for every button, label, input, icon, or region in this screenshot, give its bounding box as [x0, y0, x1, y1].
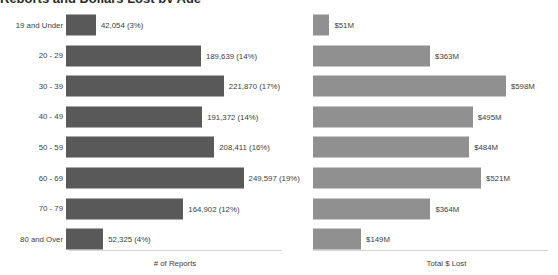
- value-label: $598M: [511, 82, 535, 91]
- bar-track: $598M: [313, 71, 558, 102]
- bar-track: $363M: [313, 40, 558, 71]
- bar-track: $364M: [313, 193, 558, 224]
- bar-track: $51M: [313, 10, 558, 41]
- value-label: $149M: [366, 235, 390, 244]
- bar-row: 30 - 39221,870 (17%): [0, 71, 290, 102]
- bar[interactable]: [313, 45, 430, 66]
- category-label: 80 and Over: [0, 235, 66, 244]
- bar-track: $521M: [313, 163, 558, 194]
- bar-track: 249,597 (19%): [66, 163, 290, 194]
- value-label: 221,870 (17%): [229, 82, 280, 91]
- value-label: $363M: [435, 51, 459, 60]
- value-label: 208,411 (16%): [219, 143, 270, 152]
- bar[interactable]: [313, 137, 469, 158]
- bar[interactable]: [66, 137, 214, 158]
- bar[interactable]: [66, 198, 183, 219]
- bar-track: 42,054 (3%): [66, 10, 290, 41]
- category-label: 20 - 29: [0, 51, 66, 60]
- category-label: 19 and Under: [0, 21, 66, 30]
- bar[interactable]: [66, 76, 224, 97]
- bar-track: $484M: [313, 132, 558, 163]
- bar-track: 164,902 (12%): [66, 193, 290, 224]
- value-label: $364M: [435, 204, 459, 213]
- bar[interactable]: [313, 106, 473, 127]
- bar[interactable]: [66, 45, 201, 66]
- bar-row: $495M: [290, 101, 558, 132]
- bar-row: $484M: [290, 132, 558, 163]
- bar-row: 20 - 29189,639 (14%): [0, 40, 290, 71]
- bar-row: $363M: [290, 40, 558, 71]
- bar[interactable]: [313, 168, 481, 189]
- bar[interactable]: [66, 229, 103, 250]
- reports-panel: 19 and Under42,054 (3%)20 - 29189,639 (1…: [0, 0, 290, 275]
- bar[interactable]: [313, 198, 430, 219]
- value-label: 164,902 (12%): [188, 204, 239, 213]
- value-label: $521M: [486, 174, 510, 183]
- bar-track: 208,411 (16%): [66, 132, 290, 163]
- bar-row: 50 - 59208,411 (16%): [0, 132, 290, 163]
- value-label: 42,054 (3%): [101, 21, 143, 30]
- bar-row: 19 and Under42,054 (3%): [0, 10, 290, 41]
- value-label: 52,325 (4%): [108, 235, 150, 244]
- bar[interactable]: [313, 229, 361, 250]
- value-label: $51M: [334, 21, 354, 30]
- dollars-lost-axis-title: Total $ Lost: [290, 259, 558, 268]
- bar[interactable]: [66, 168, 244, 189]
- bar[interactable]: [66, 106, 202, 127]
- value-label: $495M: [478, 112, 502, 121]
- bar-row: 40 - 49191,372 (14%): [0, 101, 290, 132]
- value-label: 189,639 (14%): [206, 51, 257, 60]
- bar-row: $364M: [290, 193, 558, 224]
- bar-track: 221,870 (17%): [66, 71, 290, 102]
- category-label: 40 - 49: [0, 112, 66, 121]
- bar-track: 189,639 (14%): [66, 40, 290, 71]
- category-label: 30 - 39: [0, 82, 66, 91]
- value-label: $484M: [474, 143, 498, 152]
- category-label: 60 - 69: [0, 174, 66, 183]
- reports-axis-line: [69, 250, 282, 251]
- bar-row: $521M: [290, 163, 558, 194]
- bar[interactable]: [313, 15, 329, 36]
- category-label: 50 - 59: [0, 143, 66, 152]
- bar[interactable]: [313, 76, 506, 97]
- dollars-lost-rows: $51M$363M$598M$495M$484M$521M$364M$149M: [290, 0, 558, 250]
- chart-container: Reports and Dollars Lost by Age 19 and U…: [0, 0, 558, 275]
- bar-track: 191,372 (14%): [66, 101, 290, 132]
- reports-axis-title: # of Reports: [0, 259, 290, 268]
- bar-row: 70 - 79164,902 (12%): [0, 193, 290, 224]
- value-label: 191,372 (14%): [207, 112, 258, 121]
- bar-row: $51M: [290, 10, 558, 41]
- reports-rows: 19 and Under42,054 (3%)20 - 29189,639 (1…: [0, 0, 290, 250]
- bar[interactable]: [66, 15, 96, 36]
- dollars-lost-axis-line: [313, 250, 548, 251]
- dollars-lost-panel: $51M$363M$598M$495M$484M$521M$364M$149M …: [290, 0, 558, 275]
- category-label: 70 - 79: [0, 204, 66, 213]
- bar-row: $598M: [290, 71, 558, 102]
- bar-track: $495M: [313, 101, 558, 132]
- bar-row: 60 - 69249,597 (19%): [0, 163, 290, 194]
